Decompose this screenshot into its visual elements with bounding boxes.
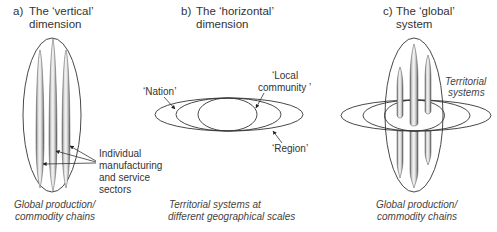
panel-a-caption-line2: commodity chains xyxy=(15,211,95,222)
column-upper-2 xyxy=(410,44,418,126)
territorial-label-line2: systems xyxy=(448,87,485,98)
panel-a: a) The ‘vertical’ dimension Individual m… xyxy=(13,5,162,222)
panel-c-caption-line2: commodity chains xyxy=(377,211,457,222)
panel-c-caption-line1: Global production/ xyxy=(376,199,458,210)
panel-b-title-line2: dimension xyxy=(196,18,248,30)
panel-c-title-line2: system xyxy=(396,18,432,30)
panel-a-title-line1: The ‘vertical’ xyxy=(29,5,94,17)
sector-annotation-line4: sectors xyxy=(99,184,131,195)
sector-column-2 xyxy=(49,39,57,191)
panel-b-caption-line1: Territorial systems at xyxy=(169,199,262,210)
sector-annotation-line1: Individual xyxy=(99,148,141,159)
column-upper-3 xyxy=(425,55,431,114)
region-label: ‘Region’ xyxy=(272,143,308,154)
sector-column-1 xyxy=(36,50,44,188)
territorial-label-line1: Territorial xyxy=(445,76,487,87)
arrow-to-sector-2 xyxy=(56,151,96,162)
panel-a-letter: a) xyxy=(13,5,23,17)
column-lower-1 xyxy=(397,131,403,178)
panel-a-title-line2: dimension xyxy=(29,18,81,30)
column-lower-2 xyxy=(410,131,418,188)
diagram-canvas: a) The ‘vertical’ dimension Individual m… xyxy=(0,0,497,232)
panel-a-caption-line1: Global production/ xyxy=(14,199,96,210)
sector-annotation-line2: manufacturing xyxy=(99,160,162,171)
local-community-label-line1: ‘Local xyxy=(272,70,298,81)
panel-b-letter: b) xyxy=(181,5,191,17)
panel-b-title-line1: The ‘horizontal’ xyxy=(196,5,274,17)
nation-ellipse xyxy=(176,98,281,131)
column-upper-1 xyxy=(397,67,403,118)
sector-column-3 xyxy=(62,50,70,188)
panel-b: b) The ‘horizontal’ dimension ‘Nation’ ‘… xyxy=(143,5,311,222)
panel-c-title-line1: The ‘global’ xyxy=(396,5,455,17)
local-community-ellipse xyxy=(198,98,257,131)
panel-c: c) The ‘global’ system Territorial syste… xyxy=(341,5,491,222)
nation-arrow xyxy=(164,97,175,109)
local-community-label-line2: community ’ xyxy=(258,82,311,93)
panel-b-caption-line2: different geographical scales xyxy=(168,211,295,222)
sector-annotation-line3: and service xyxy=(99,172,151,183)
nation-label: ‘Nation’ xyxy=(143,86,176,97)
column-lower-3 xyxy=(425,131,431,165)
panel-c-letter: c) xyxy=(383,5,393,17)
region-arrow xyxy=(273,131,282,143)
